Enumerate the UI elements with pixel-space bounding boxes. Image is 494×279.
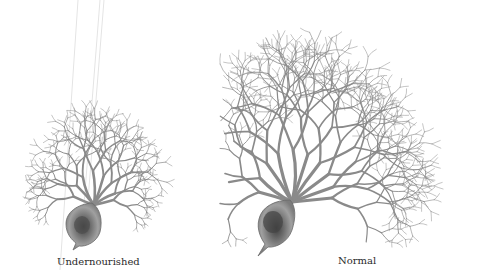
normal-neuron-soma	[258, 200, 295, 256]
neuron-comparison-figure: Undernourished Normal	[0, 0, 494, 279]
normal-nucleus	[263, 211, 283, 233]
neuron-illustrations	[0, 0, 494, 279]
undernourished-nucleus	[74, 216, 90, 234]
label-normal: Normal	[338, 255, 376, 266]
undernourished-neuron-soma	[66, 203, 101, 250]
label-undernourished: Undernourished	[57, 256, 140, 267]
normal-neuron-dendrites	[220, 28, 443, 247]
